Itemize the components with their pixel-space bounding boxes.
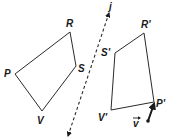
vertex-label-p: P: [4, 68, 11, 79]
line-j-label: j: [107, 1, 112, 12]
quadrilateral-prsv: [15, 32, 76, 111]
vector-v: [148, 104, 154, 121]
vertex-label-s: S: [78, 63, 85, 74]
vertex-label-v-prime: V': [98, 112, 108, 123]
vertex-label-v: V: [37, 115, 45, 126]
vertex-label-s-prime: S': [101, 47, 111, 58]
vector-v-label: v: [133, 118, 140, 129]
quadrilateral-prsv-image: [111, 33, 154, 110]
vertex-label-r-prime: R': [141, 19, 151, 30]
vertex-label-p-prime: P': [156, 98, 166, 109]
vector-v-tail-dot: [146, 119, 150, 123]
translation-diagram: PRSVP'R'S'V' v j: [0, 0, 169, 138]
vertex-label-r: R: [66, 18, 74, 29]
vector-arrow-tip-icon: [138, 116, 141, 120]
